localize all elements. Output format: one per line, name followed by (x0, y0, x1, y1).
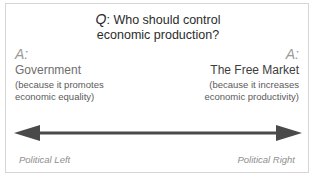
left-answer-marker: A: (15, 46, 151, 62)
right-answer-reason-line-1: (because it increases (163, 79, 299, 91)
question-line-2: economic production? (6, 28, 310, 43)
double-headed-spectrum-arrow-icon (10, 116, 306, 150)
left-answer-reason: (because it promotes economic equality) (15, 79, 151, 102)
diagram-frame: Q: Who should control economic productio… (5, 3, 309, 173)
question-colon: : (106, 13, 109, 27)
right-answer-title: The Free Market (163, 63, 299, 78)
pole-label-right: Political Right (237, 154, 295, 166)
question-text-line-1: Who should control (113, 13, 220, 27)
right-answer-block: A: The Free Market (because it increases… (163, 46, 299, 102)
question-marker: Q (96, 11, 107, 27)
right-answer-reason: (because it increases economic productiv… (163, 79, 299, 102)
question-line-1: Q: Who should control (6, 12, 310, 28)
pole-label-left: Political Left (19, 154, 70, 166)
right-answer-marker: A: (163, 46, 299, 62)
right-answer-reason-line-2: economic productivity) (163, 91, 299, 103)
left-answer-reason-line-2: economic equality) (15, 91, 151, 103)
question-block: Q: Who should control economic productio… (6, 12, 310, 43)
left-answer-title: Government (15, 63, 151, 78)
left-answer-reason-line-1: (because it promotes (15, 79, 151, 91)
left-answer-block: A: Government (because it promotes econo… (15, 46, 151, 102)
